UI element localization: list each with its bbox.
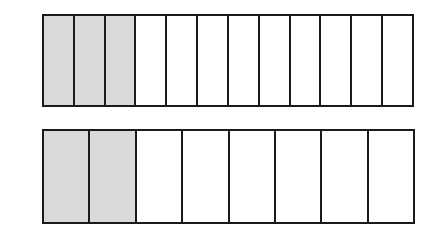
unshaded-cell (274, 131, 320, 222)
fraction-bar-eighths (42, 129, 415, 224)
unshaded-cell (319, 16, 350, 105)
unshaded-cell (134, 16, 165, 105)
shaded-cell (104, 16, 135, 105)
unshaded-cell (381, 16, 412, 105)
unshaded-cell (181, 131, 227, 222)
unshaded-cell (367, 131, 413, 222)
unshaded-cell (165, 16, 196, 105)
unshaded-cell (196, 16, 227, 105)
shaded-cell (88, 131, 134, 222)
shaded-cell (44, 16, 73, 105)
shaded-cell (44, 131, 88, 222)
unshaded-cell (320, 131, 366, 222)
unshaded-cell (289, 16, 320, 105)
unshaded-cell (135, 131, 181, 222)
shaded-cell (73, 16, 104, 105)
unshaded-cell (228, 131, 274, 222)
unshaded-cell (227, 16, 258, 105)
fraction-bar-twelfths (42, 14, 414, 107)
unshaded-cell (350, 16, 381, 105)
unshaded-cell (258, 16, 289, 105)
